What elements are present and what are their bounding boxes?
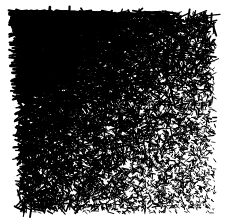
stroke-texture-plot <box>0 0 227 223</box>
figure-root <box>0 0 227 223</box>
